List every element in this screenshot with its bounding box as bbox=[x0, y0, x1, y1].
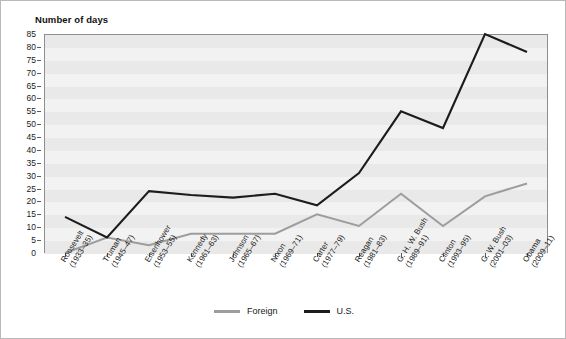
series-line-us bbox=[65, 34, 527, 238]
y-tick-mark bbox=[37, 201, 41, 202]
x-tick-mark bbox=[107, 253, 108, 257]
y-tick-label: 75 bbox=[27, 56, 36, 65]
x-tick-mark bbox=[317, 253, 318, 257]
x-tick-mark bbox=[527, 253, 528, 257]
x-tick-mark bbox=[275, 253, 276, 257]
y-tick-mark bbox=[37, 60, 41, 61]
y-tick-mark bbox=[37, 137, 41, 138]
series-lines bbox=[44, 34, 548, 253]
y-tick-label: 80 bbox=[27, 43, 36, 52]
legend-line-swatch bbox=[304, 310, 330, 313]
legend-item-us[interactable]: U.S. bbox=[304, 306, 355, 316]
y-tick-mark bbox=[37, 214, 41, 215]
x-tick-mark bbox=[359, 253, 360, 257]
x-tick-mark bbox=[191, 253, 192, 257]
y-tick-label: 70 bbox=[27, 68, 36, 77]
x-tick-mark bbox=[65, 253, 66, 257]
y-tick-mark bbox=[37, 124, 41, 125]
plot-wrapper bbox=[44, 34, 548, 253]
y-tick-mark bbox=[37, 111, 41, 112]
legend-label: U.S. bbox=[337, 306, 355, 316]
legend-item-foreign[interactable]: Foreign bbox=[214, 306, 278, 316]
legend-label: Foreign bbox=[247, 306, 278, 316]
y-tick-label: 65 bbox=[27, 81, 36, 90]
y-tick-mark bbox=[37, 227, 41, 228]
chart-legend: ForeignU.S. bbox=[1, 306, 566, 316]
y-tick-mark bbox=[37, 176, 41, 177]
y-tick-mark bbox=[37, 163, 41, 164]
y-axis: 0510152025303540455055606570758085 bbox=[1, 34, 41, 253]
x-tick-mark bbox=[149, 253, 150, 257]
series-line-foreign bbox=[65, 183, 527, 253]
x-tick-mark bbox=[233, 253, 234, 257]
y-tick-label: 5 bbox=[31, 236, 36, 245]
y-tick-label: 55 bbox=[27, 107, 36, 116]
y-tick-label: 15 bbox=[27, 210, 36, 219]
x-tick-mark bbox=[485, 253, 486, 257]
y-tick-mark bbox=[37, 98, 41, 99]
y-tick-mark bbox=[37, 47, 41, 48]
y-tick-label: 45 bbox=[27, 133, 36, 142]
y-tick-label: 85 bbox=[27, 30, 36, 39]
y-tick-label: 40 bbox=[27, 146, 36, 155]
y-tick-mark bbox=[37, 240, 41, 241]
y-tick-label: 50 bbox=[27, 120, 36, 129]
y-axis-title: Number of days bbox=[35, 14, 108, 25]
chart-figure: Number of days 0510152025303540455055606… bbox=[0, 0, 566, 339]
y-tick-label: 0 bbox=[31, 249, 36, 258]
y-tick-label: 60 bbox=[27, 94, 36, 103]
x-axis-ticks bbox=[44, 253, 548, 258]
y-tick-mark bbox=[37, 150, 41, 151]
y-tick-mark bbox=[37, 73, 41, 74]
legend-line-swatch bbox=[214, 310, 240, 313]
y-tick-mark bbox=[37, 86, 41, 87]
y-tick-label: 30 bbox=[27, 171, 36, 180]
y-tick-label: 25 bbox=[27, 184, 36, 193]
x-tick-mark bbox=[443, 253, 444, 257]
x-tick-mark bbox=[401, 253, 402, 257]
y-tick-label: 35 bbox=[27, 159, 36, 168]
y-tick-label: 20 bbox=[27, 197, 36, 206]
y-tick-mark bbox=[37, 189, 41, 190]
y-tick-label: 10 bbox=[27, 223, 36, 232]
